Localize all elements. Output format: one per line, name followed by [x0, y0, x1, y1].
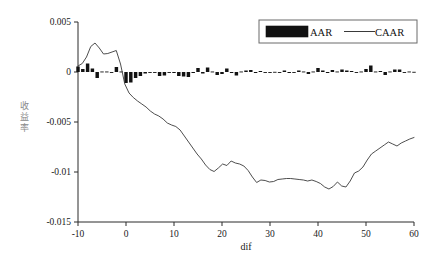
aar-bar — [355, 72, 358, 73]
aar-bar — [239, 72, 242, 73]
aar-bar — [278, 72, 281, 73]
aar-bar — [95, 72, 98, 78]
aar-bar — [302, 72, 305, 73]
aar-bar — [388, 72, 391, 73]
aar-bar — [187, 72, 190, 77]
aar-bar — [345, 71, 348, 73]
x-tick-label: 20 — [217, 229, 227, 239]
y-axis-ticks: 0.0050-0.005-0.01-0.015 — [46, 17, 78, 227]
y-axis-title: 收益率 — [20, 100, 29, 133]
aar-bar — [235, 72, 238, 76]
aar-bar — [244, 71, 247, 73]
aar-bar — [105, 72, 108, 73]
aar-bar — [158, 72, 161, 76]
axes — [78, 22, 414, 222]
aar-bar — [398, 70, 401, 73]
aar-bar — [81, 69, 84, 72]
x-tick-label: 0 — [124, 229, 129, 239]
aar-bar — [177, 72, 180, 76]
aar-bar — [115, 67, 118, 72]
aar-bar — [297, 71, 300, 73]
aar-bar — [100, 72, 103, 73]
aar-bar — [292, 72, 295, 73]
aar-bar-series — [76, 64, 415, 84]
aar-bar — [412, 72, 415, 73]
legend-swatch-aar — [266, 26, 308, 37]
aar-bar — [364, 69, 367, 72]
legend-label-caar: CAAR — [375, 27, 404, 38]
aar-bar — [201, 72, 204, 74]
x-axis-title: dif — [240, 241, 252, 252]
x-tick-label: 30 — [265, 229, 275, 239]
aar-bar — [369, 66, 372, 73]
chart-figure: 0.0050-0.005-0.01-0.015 -100102030405060… — [0, 0, 429, 271]
aar-bar — [167, 72, 170, 73]
chart-legend: AAR CAAR — [259, 20, 417, 43]
aar-bar — [91, 69, 94, 73]
y-tick-label: 0.005 — [50, 17, 72, 27]
chart-canvas: 0.0050-0.005-0.01-0.015 -100102030405060… — [0, 0, 429, 271]
aar-bar — [134, 72, 137, 78]
y-tick-label: 0 — [66, 67, 71, 77]
y-tick-label: -0.015 — [46, 217, 71, 227]
aar-bar — [254, 72, 257, 73]
aar-bar — [316, 68, 319, 72]
x-tick-label: 40 — [313, 229, 323, 239]
aar-bar — [287, 72, 290, 73]
aar-bar — [76, 67, 79, 73]
aar-bar — [273, 72, 276, 73]
aar-bar — [321, 71, 324, 73]
aar-bar — [143, 72, 146, 74]
aar-bar — [153, 72, 156, 73]
aar-bar — [172, 72, 175, 73]
x-tick-label: 10 — [169, 229, 179, 239]
caar-line-series — [78, 43, 414, 189]
legend-label-aar: AAR — [310, 27, 332, 38]
aar-bar — [124, 72, 127, 83]
y-tick-label: -0.01 — [51, 167, 71, 177]
x-tick-label: -10 — [72, 229, 85, 239]
aar-bar — [350, 71, 353, 72]
aar-bar — [86, 64, 89, 73]
aar-bar — [407, 72, 410, 73]
aar-bar — [359, 72, 362, 73]
aar-bar — [182, 72, 185, 77]
aar-bar — [335, 72, 338, 73]
aar-bar — [191, 72, 194, 73]
x-axis-ticks: -100102030405060 — [72, 222, 419, 239]
aar-bar — [307, 72, 310, 74]
aar-bar — [403, 72, 406, 73]
aar-bar — [225, 69, 228, 73]
aar-bar — [393, 70, 396, 73]
aar-bar — [379, 71, 382, 72]
aar-bar — [326, 72, 329, 73]
aar-bar — [148, 72, 151, 73]
aar-bar — [263, 72, 266, 73]
aar-bar — [340, 70, 343, 73]
aar-bar — [206, 68, 209, 73]
y-tick-label: -0.005 — [46, 117, 71, 127]
aar-bar — [220, 72, 223, 74]
aar-bar — [196, 68, 199, 72]
aar-bar — [383, 72, 386, 75]
aar-bar — [139, 72, 142, 76]
aar-bar — [268, 72, 271, 73]
x-tick-label: 50 — [361, 229, 371, 239]
aar-bar — [249, 70, 252, 72]
aar-bar — [374, 72, 377, 73]
aar-bar — [230, 72, 233, 73]
aar-bar — [110, 72, 113, 73]
aar-bar — [211, 72, 214, 73]
x-tick-label: 60 — [409, 229, 419, 239]
aar-bar — [215, 72, 218, 75]
aar-bar — [331, 70, 334, 72]
aar-bar — [311, 72, 314, 73]
aar-bar — [283, 71, 286, 73]
aar-bar — [259, 71, 262, 72]
aar-bar — [129, 72, 132, 83]
aar-bar — [163, 72, 166, 76]
